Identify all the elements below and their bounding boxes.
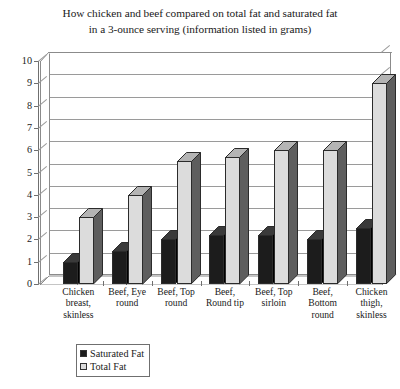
bar-front-face <box>177 161 192 284</box>
bar-front-face <box>161 239 176 284</box>
x-tick-label-line: breast, <box>54 297 103 308</box>
x-tick-label-line: Bottom <box>298 297 347 308</box>
bar <box>307 239 322 284</box>
x-tick-mark <box>249 281 250 286</box>
bar-side-face <box>142 186 153 286</box>
legend-entry: Total Fat <box>80 360 144 373</box>
bar-side-face <box>239 148 250 286</box>
x-tick-label-line: thigh, <box>347 297 396 308</box>
bar <box>209 235 224 284</box>
bar-front-face <box>79 217 94 284</box>
legend-label: Total Fat <box>90 361 126 372</box>
bar-top-face <box>79 208 105 219</box>
x-tick-label: Beef, Topround <box>152 286 201 309</box>
y-tick-label: 1 <box>10 257 32 267</box>
x-tick-label-line: Beef, <box>298 286 347 297</box>
bar <box>128 195 143 284</box>
bar <box>112 251 127 284</box>
bar-top-face <box>372 74 398 85</box>
y-axis-labels: 109876543210 <box>8 52 32 292</box>
bar <box>177 161 192 284</box>
bar-front-face <box>128 195 143 284</box>
bar <box>225 157 240 284</box>
y-tick-label: 4 <box>10 190 32 200</box>
y-tick-label: 2 <box>10 234 32 244</box>
x-tick-label: Beef, Eyeround <box>103 286 152 309</box>
bar-side-face <box>337 141 348 286</box>
bar-side-face <box>288 141 299 286</box>
x-tick-label-line: Beef, Eye <box>103 286 152 297</box>
x-tick-label-line: sirloin <box>249 297 298 308</box>
bar-front-face <box>225 157 240 284</box>
legend-entry: Saturated Fat <box>80 347 144 360</box>
x-tick-label: Beef,Round tip <box>201 286 250 309</box>
x-tick-mark <box>347 281 348 286</box>
x-tick-label-line: Beef, <box>201 286 250 297</box>
bar-top-face <box>274 141 300 152</box>
x-tick-label: Chickenbreast,skinless <box>54 286 103 320</box>
x-tick-mark <box>298 281 299 286</box>
x-tick-label-line: round <box>152 297 201 308</box>
y-tick-label: 7 <box>10 123 32 133</box>
x-tick-mark <box>152 281 153 286</box>
bar-front-face <box>372 83 387 284</box>
legend-swatch <box>80 363 87 370</box>
bar <box>79 217 94 284</box>
x-tick-label-line: round <box>103 297 152 308</box>
x-tick-label-line: Beef, Top <box>152 286 201 297</box>
x-tick-label-line: Round tip <box>201 297 250 308</box>
y-tick-label: 0 <box>10 279 32 289</box>
bar <box>63 262 78 284</box>
x-tick-label: Beef,Bottomround <box>298 286 347 320</box>
x-axis-labels: Chickenbreast,skinlessBeef, EyeroundBeef… <box>33 286 393 330</box>
y-tick-label: 6 <box>10 145 32 155</box>
bar <box>372 83 387 284</box>
bar <box>258 235 273 284</box>
bar <box>161 239 176 284</box>
chart-title: How chicken and beef compared on total f… <box>0 6 400 37</box>
y-tick-label: 8 <box>10 101 32 111</box>
y-tick-label: 10 <box>10 56 32 66</box>
x-tick-label-line: skinless <box>54 309 103 320</box>
x-tick-label-line: Chicken <box>347 286 396 297</box>
bar-front-face <box>307 239 322 284</box>
legend-swatch <box>80 350 87 357</box>
bar <box>323 150 338 284</box>
bar-side-face <box>191 152 202 286</box>
bar-front-face <box>63 262 78 284</box>
chart-legend: Saturated FatTotal Fat <box>76 344 150 377</box>
chart-title-line-2: in a 3-ounce serving (information listed… <box>0 22 400 38</box>
x-tick-label-line: skinless <box>347 309 396 320</box>
y-tick-label: 3 <box>10 212 32 222</box>
y-tick-label: 5 <box>10 168 32 178</box>
bar-front-face <box>258 235 273 284</box>
bar-front-face <box>356 228 371 284</box>
bar-front-face <box>112 251 127 284</box>
bar-side-face <box>386 74 397 286</box>
x-tick-mark <box>103 281 104 286</box>
bar-side-face <box>93 208 104 286</box>
bar <box>356 228 371 284</box>
bar-top-face <box>177 152 203 163</box>
bar-top-face <box>323 141 349 152</box>
bar-top-face <box>128 186 154 197</box>
x-tick-label: Beef, Topsirloin <box>249 286 298 309</box>
chart-title-line-1: How chicken and beef compared on total f… <box>0 6 400 22</box>
x-tick-label-line: round <box>298 309 347 320</box>
bar-front-face <box>274 150 289 284</box>
y-tick-label: 9 <box>10 78 32 88</box>
bars-layer <box>40 52 392 292</box>
bar-front-face <box>209 235 224 284</box>
x-tick-label-line: Beef, Top <box>249 286 298 297</box>
bar-top-face <box>225 148 251 159</box>
x-tick-label-line: Chicken <box>54 286 103 297</box>
bar <box>274 150 289 284</box>
x-tick-label: Chickenthigh,skinless <box>347 286 396 320</box>
legend-label: Saturated Fat <box>90 348 144 359</box>
bar-front-face <box>323 150 338 284</box>
x-tick-mark <box>201 281 202 286</box>
